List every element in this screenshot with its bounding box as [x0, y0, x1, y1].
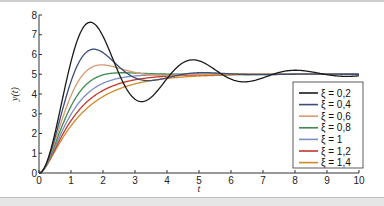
x-tick-label: 1 [68, 175, 74, 186]
bottom-border [0, 197, 384, 206]
y-tick-label: 3 [31, 108, 37, 119]
y-tick-label: 0 [31, 168, 37, 179]
x-tick-label: 10 [353, 175, 365, 186]
y-ticks: 012345678 [31, 10, 42, 179]
x-axis-label: t [198, 183, 201, 194]
x-ticks: 012345678910 [36, 170, 365, 186]
x-tick-label: 3 [132, 175, 138, 186]
x-tick-label: 4 [164, 175, 170, 186]
y-tick-label: 2 [31, 128, 37, 139]
x-tick-label: 0 [36, 175, 42, 186]
legend: ξ = 0,2ξ = 0,4ξ = 0,6ξ = 0,8ξ = 1ξ = 1,2… [293, 82, 363, 169]
legend-label: ξ = 1 [321, 134, 343, 146]
legend-label: ξ = 0,4 [321, 99, 351, 111]
legend-label: ξ = 0,8 [321, 122, 351, 134]
legend-label: ξ = 0,2 [321, 88, 351, 100]
y-tick-label: 6 [31, 49, 37, 60]
chart-svg: 012345678910 012345678 t y(t) ξ = 0,2ξ =… [0, 0, 384, 206]
x-tick-label: 7 [260, 175, 266, 186]
x-tick-label: 9 [324, 175, 330, 186]
y-tick-label: 7 [31, 29, 37, 40]
y-axis-label: y(t) [9, 86, 21, 102]
y-tick-label: 8 [31, 10, 37, 21]
y-tick-label: 5 [31, 69, 37, 80]
x-tick-label: 2 [100, 175, 106, 186]
y-tick-label: 4 [31, 89, 37, 100]
x-tick-label: 6 [228, 175, 234, 186]
legend-label: ξ = 1,2 [321, 146, 351, 158]
y-tick-label: 1 [31, 148, 37, 159]
legend-label: ξ = 0,6 [321, 111, 351, 123]
x-tick-label: 8 [292, 175, 298, 186]
legend-label: ξ = 1,4 [321, 157, 351, 169]
